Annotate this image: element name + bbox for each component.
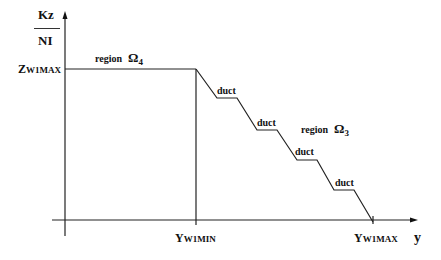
y-axis-arrow-icon xyxy=(63,11,68,19)
region4-omega: Ω xyxy=(128,50,138,65)
ymin-main: Y xyxy=(175,231,184,245)
zmax-sub: W1MAX xyxy=(26,65,61,75)
y-axis-label-denominator: NI xyxy=(38,34,52,47)
region3-text: region xyxy=(301,124,328,135)
y-axis-label-numerator: Kz xyxy=(38,8,54,21)
diagram-canvas xyxy=(0,0,441,260)
duct-label-2: duct xyxy=(257,118,276,128)
x-axis-variable-label: y xyxy=(414,231,421,245)
region-omega4-label: regionΩ4 xyxy=(95,51,143,67)
region3-omega: Ω xyxy=(334,121,344,136)
ymin-sub: W1MIN xyxy=(184,234,216,244)
x-tick-yw1min: YW1MIN xyxy=(175,232,216,244)
ymax-main: Y xyxy=(354,231,363,245)
y-axis-fraction-bar xyxy=(34,28,60,29)
region-omega3-label: regionΩ3 xyxy=(301,122,349,138)
region3-subscript: 3 xyxy=(344,128,349,138)
zmax-main: Z xyxy=(18,62,26,76)
duct-label-4: duct xyxy=(335,178,354,188)
x-axis-arrow-icon xyxy=(410,218,418,223)
duct-label-3: duct xyxy=(295,147,314,157)
duct-label-1: duct xyxy=(217,86,236,96)
region4-text: region xyxy=(95,53,122,64)
y-tick-zw1max: ZW1MAX xyxy=(18,63,61,75)
region4-subscript: 4 xyxy=(138,57,143,67)
ymax-sub: W1MAX xyxy=(363,234,398,244)
x-tick-yw1max: YW1MAX xyxy=(354,232,398,244)
